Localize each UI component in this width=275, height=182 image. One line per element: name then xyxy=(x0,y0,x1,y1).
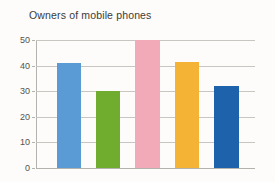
y-axis-tick-mark xyxy=(32,40,35,41)
y-axis-tick-mark xyxy=(32,168,35,169)
bar xyxy=(214,86,238,168)
y-axis-tick-mark xyxy=(32,142,35,143)
y-axis-tick-label: 0 xyxy=(25,163,30,173)
bar-chart: Owners of mobile phones 01020304050 xyxy=(0,0,275,182)
y-axis-tick-label: 40 xyxy=(20,61,30,71)
y-axis-tick-mark xyxy=(32,91,35,92)
y-axis-tick-label: 10 xyxy=(20,137,30,147)
plot-area xyxy=(36,40,255,168)
bar xyxy=(57,63,81,168)
bar xyxy=(96,91,120,168)
bar xyxy=(175,62,199,168)
y-axis-tick-mark xyxy=(32,117,35,118)
y-axis-tick-mark xyxy=(32,66,35,67)
gridline xyxy=(36,168,255,169)
y-axis-tick-label: 50 xyxy=(20,35,30,45)
y-axis-tick-labels: 01020304050 xyxy=(8,40,30,168)
y-axis-tick-label: 30 xyxy=(20,86,30,96)
y-axis-tick-label: 20 xyxy=(20,112,30,122)
chart-title: Owners of mobile phones xyxy=(29,9,152,21)
bar xyxy=(135,40,159,168)
